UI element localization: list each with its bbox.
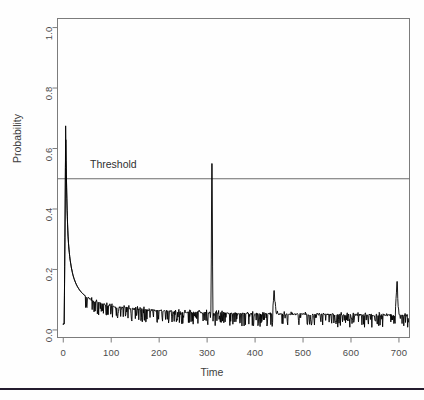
y-tick-label: 0.4 [42,207,53,233]
x-tick-label: 300 [187,347,227,358]
bottom-divider [0,388,424,390]
x-tick-label: 100 [91,347,131,358]
y-tick-label: 1.0 [42,26,53,52]
x-tick-label: 500 [283,347,323,358]
x-tick-label: 600 [331,347,371,358]
x-tick-label: 200 [139,347,179,358]
threshold-label: Threshold [90,158,137,170]
x-tick-label: 400 [235,347,275,358]
x-axis-ticks [63,338,399,343]
y-tick-label: 0.6 [42,147,53,173]
y-tick-label: 0.8 [42,87,53,113]
y-tick-label: 0.2 [42,268,53,294]
x-tick-label: 0 [43,347,83,358]
plot-frame [57,18,410,338]
chart-figure: 0.00.20.40.60.81.0 010020030040050060070… [0,0,424,400]
x-axis-title: Time [0,366,424,378]
y-axis-title: Probability [11,149,23,163]
x-tick-label: 700 [379,347,419,358]
